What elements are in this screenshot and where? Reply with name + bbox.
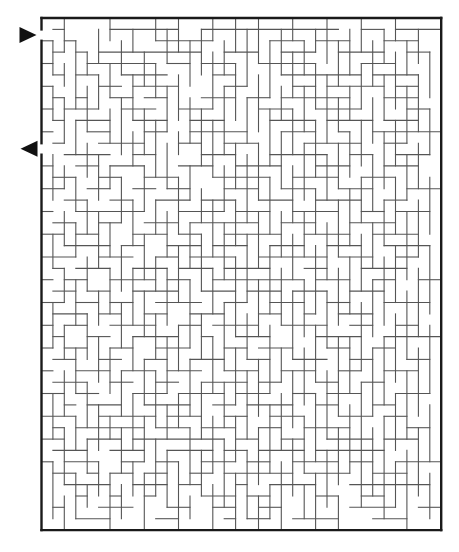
maze-puzzle <box>0 0 459 552</box>
start-arrow-icon <box>20 27 37 43</box>
maze-walls <box>42 18 442 530</box>
maze-canvas <box>0 0 459 552</box>
maze-border <box>42 18 442 530</box>
end-arrow-icon <box>21 141 38 157</box>
